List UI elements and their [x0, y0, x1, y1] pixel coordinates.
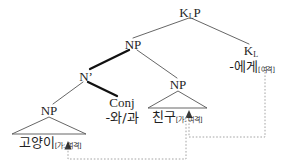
terminal-cat-word: 고양이[가: 여격]: [19, 134, 82, 150]
triangle-np-right: [148, 91, 207, 108]
edge-klp-to-np: [133, 18, 189, 38]
edge-klp-to-kl: [191, 18, 249, 44]
terminal-friend-feature-case: [가:: [176, 116, 189, 124]
terminal-cat-feature-dative: 여격]: [67, 142, 81, 150]
node-klp-k: K: [179, 5, 188, 20]
node-np-left: NP: [41, 104, 58, 117]
node-kl: KL: [244, 44, 258, 59]
node-klp: KLP: [179, 6, 201, 21]
edge-nbar-to-np-left: [53, 82, 83, 104]
terminal-cat-text: 고양이: [19, 135, 55, 150]
edge-nbar-to-conj: [88, 82, 117, 96]
edge-np-to-np-right: [137, 50, 177, 78]
branch-lines-bold: [88, 50, 129, 96]
terminal-friend-word: 친구[가: 여격]: [152, 108, 203, 124]
node-kl-morph-feature: [여격]: [258, 66, 275, 74]
terminal-friend-feature-dative: 여격]: [188, 116, 202, 124]
triangle-np-left: [12, 117, 86, 134]
node-np-right: NP: [170, 78, 187, 91]
terminal-friend-text: 친구: [152, 109, 176, 124]
edge-np-to-nbar: [90, 50, 129, 69]
node-klp-p: P: [194, 5, 201, 20]
node-nbar: N’: [79, 70, 93, 83]
node-kl-morph-text: -에게: [229, 59, 258, 74]
branch-lines-thin: [53, 18, 249, 104]
terminal-cat-feature-case: [가:: [55, 142, 68, 150]
node-kl-k: K: [244, 43, 253, 58]
node-conj-morph: -와/과: [105, 111, 138, 124]
node-conj: Conj: [109, 96, 134, 109]
node-np-top: NP: [125, 38, 142, 51]
node-kl-morph: -에게[여격]: [229, 58, 274, 74]
